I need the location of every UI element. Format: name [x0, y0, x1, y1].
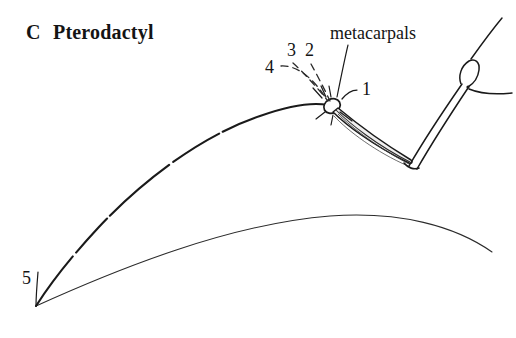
pterodactyl-wing-figure: C Pterodactyl metacarpals 1 2 3 4 5 [0, 0, 516, 338]
forearm-ulna [417, 88, 468, 169]
wing-membrane-trailing-edge [36, 215, 492, 306]
label-metacarpals: metacarpals [330, 24, 416, 42]
shoulder-joint [460, 60, 479, 87]
wing-finger-leading-edge [36, 104, 328, 306]
wing-diagram-drawing [0, 0, 516, 338]
humerus [471, 18, 502, 59]
wrist-radiating-tick-d [316, 112, 325, 119]
panel-letter: C [26, 22, 40, 42]
shoulder-joint-dot [466, 85, 469, 88]
digit-4-leader [281, 66, 327, 100]
metacarpals-leader-line [337, 45, 348, 97]
forearm-radius [409, 84, 462, 166]
digit-5-leader-line [36, 272, 38, 306]
label-digit-5: 5 [22, 269, 31, 287]
label-digit-4: 4 [265, 58, 274, 76]
page-title: Pterodactyl [53, 22, 154, 42]
wrist-radiating-tick-c [329, 86, 331, 97]
wrist-radiating-tick-e [331, 115, 333, 125]
label-digit-2: 2 [305, 41, 314, 59]
digit-1-leader-line [342, 90, 357, 99]
label-digit-1: 1 [362, 80, 371, 98]
label-digit-3: 3 [287, 41, 296, 59]
digit-3-leader [293, 63, 328, 101]
body-outline [469, 89, 512, 94]
